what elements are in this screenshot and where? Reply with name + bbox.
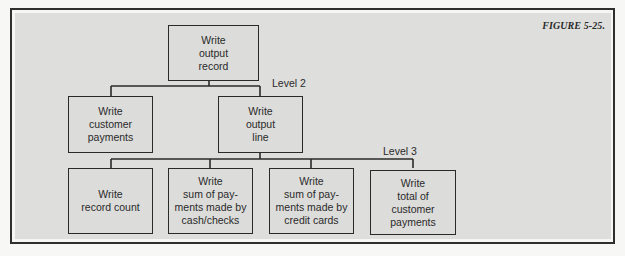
level-3-label: Level 3	[383, 145, 417, 157]
node-write-customer-payments: Write customer payments	[68, 96, 153, 153]
node-label: Write customer payments	[88, 105, 134, 144]
node-label: Write sum of pay- ments made by credit c…	[276, 175, 348, 227]
node-write-record-count: Write record count	[68, 168, 153, 234]
node-label: Write sum of pay- ments made by cash/che…	[175, 175, 247, 227]
node-label: Write record count	[81, 188, 139, 214]
level-2-label: Level 2	[272, 77, 306, 89]
node-label: Write total of customer payments	[390, 177, 436, 229]
node-write-sum-cash-checks: Write sum of pay- ments made by cash/che…	[168, 168, 253, 234]
node-label: Write output line	[246, 105, 275, 144]
node-write-output-record: Write output record	[168, 25, 259, 81]
node-label: Write output record	[199, 34, 229, 73]
node-write-sum-credit-cards: Write sum of pay- ments made by credit c…	[269, 168, 354, 234]
node-write-output-line: Write output line	[218, 96, 303, 153]
node-write-total-customer-payments: Write total of customer payments	[370, 170, 456, 235]
